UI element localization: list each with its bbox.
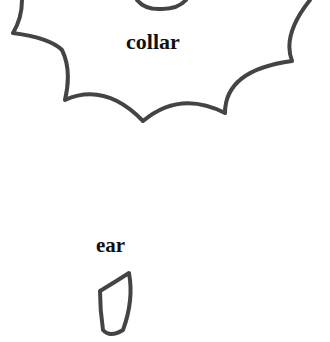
collar-outline	[13, 0, 310, 121]
ear-outline	[100, 273, 131, 334]
ear-label: ear	[96, 235, 125, 256]
collar-label: collar	[126, 31, 180, 53]
collar-neck-opening	[137, 0, 186, 9]
